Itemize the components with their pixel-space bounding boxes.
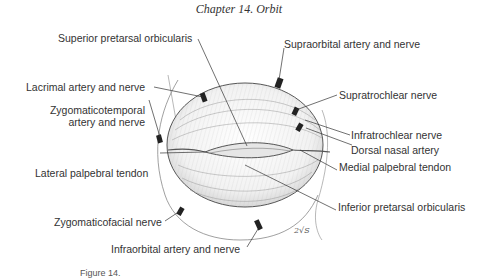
label-inferior-pretarsal-orbicularis: Inferior pretarsal orbicularis <box>338 201 465 213</box>
figure-caption: Figure 14. <box>80 268 121 278</box>
label-zygomaticotemporal-line1: Zygomaticotemporal <box>40 104 145 116</box>
label-infraorbital-artery-nerve: Infraorbital artery and nerve <box>111 243 240 255</box>
label-infratrochlear-nerve: Infratrochlear nerve <box>351 129 442 141</box>
artist-signature: 2√S <box>294 226 310 235</box>
label-lacrimal-artery-nerve: Lacrimal artery and nerve <box>26 81 145 93</box>
label-medial-palpebral-tendon: Medial palpebral tendon <box>339 161 451 173</box>
label-lateral-palpebral-tendon: Lateral palpebral tendon <box>35 167 148 179</box>
label-supraorbital-artery-nerve: Supraorbital artery and nerve <box>284 38 420 50</box>
label-zygomaticotemporal-line2: artery and nerve <box>40 116 145 128</box>
label-dorsal-nasal-artery: Dorsal nasal artery <box>351 144 439 156</box>
label-zygomaticofacial-nerve: Zygomaticofacial nerve <box>54 216 162 228</box>
label-supratrochlear-nerve: Supratrochlear nerve <box>339 89 437 101</box>
label-zygomaticotemporal: Zygomaticotemporal artery and nerve <box>40 104 145 128</box>
label-superior-pretarsal-orbicularis: Superior pretarsal orbicularis <box>58 32 192 44</box>
